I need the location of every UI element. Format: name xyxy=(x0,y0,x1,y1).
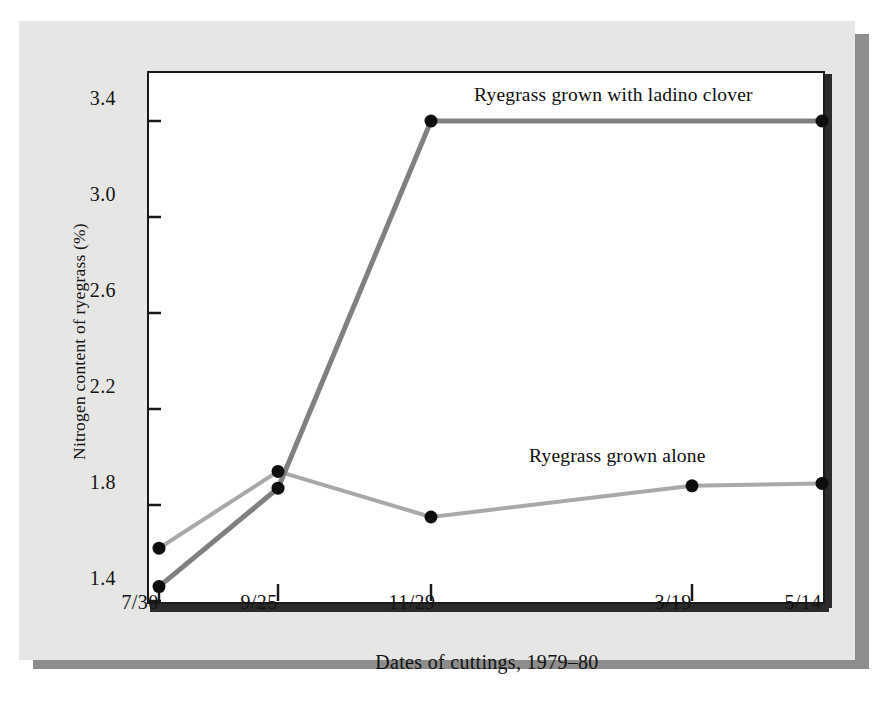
y-axis-tick-label: 1.4 xyxy=(56,567,116,590)
x-axis-tick-label: 9/25 xyxy=(214,591,304,614)
y-axis-tick-label: 3.4 xyxy=(56,87,116,110)
x-axis-title: Dates of cuttings, 1979–80 xyxy=(197,651,777,674)
series-label-ryegrass-alone: Ryegrass grown alone xyxy=(529,445,706,467)
x-axis-tick-label: 5/14 xyxy=(758,591,848,614)
series-label-ryegrass-with-clover: Ryegrass grown with ladino clover xyxy=(474,84,753,106)
figure-card: 1.41.82.22.63.03.4 7/309/2511/293/195/14… xyxy=(19,21,855,660)
figure-root: 1.41.82.22.63.03.4 7/309/2511/293/195/14… xyxy=(0,0,887,716)
y-axis-title: Nitrogen content of ryegrass (%) xyxy=(69,177,90,507)
plot-frame xyxy=(147,71,825,604)
plot-frame-shadow-right xyxy=(825,74,832,608)
x-axis-tick-label: 11/29 xyxy=(367,591,457,614)
x-axis-tick-label: 3/19 xyxy=(628,591,718,614)
x-axis-tick-label: 7/30 xyxy=(95,591,185,614)
card-shadow-right xyxy=(855,34,869,669)
